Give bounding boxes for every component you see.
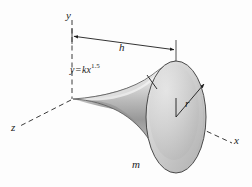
- z-axis-line: [20, 100, 71, 126]
- diagram-canvas: [0, 0, 252, 187]
- dimension-label-h: h: [119, 42, 125, 53]
- curve-equation-label: y=kx1.5: [70, 64, 100, 75]
- radius-label-r: r: [185, 98, 189, 109]
- end-face-sheen: [149, 64, 199, 160]
- equation-rhs: kx: [82, 64, 91, 75]
- axis-label-y: y: [66, 10, 71, 21]
- figure-container: y z x h r m y=kx1.5: [0, 0, 252, 187]
- axis-label-x: x: [234, 135, 239, 146]
- equation-exponent: 1.5: [91, 62, 100, 70]
- equation-equals: =: [74, 64, 82, 75]
- mass-label-m: m: [132, 159, 140, 170]
- axis-label-z: z: [11, 122, 15, 133]
